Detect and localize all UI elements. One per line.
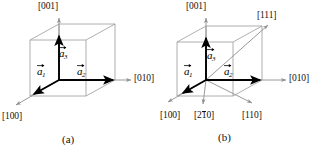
vector-label-a2-b: a2 [224,66,233,79]
vector-label-a2-a: a2 [77,66,86,79]
direction-label-210-b: [210] [194,111,214,121]
direction-210-overbar-digit: 1 [202,111,207,121]
panel-caption-a: (a) [62,133,74,145]
crystal-direction-figure: [001] [010] [100] a3 a2 [0,0,320,156]
axis-rays-a [16,18,131,105]
panel-b: [001] [111] [010] [100] [210] [110] a3 a… [160,0,320,156]
ray-110-b [206,80,252,103]
panel-a: [001] [010] [100] a3 a2 [0,0,160,156]
vector-label-a1-b: a1 [184,66,193,79]
cube-wireframe-b [177,26,262,96]
direction-label-001-b: [001] [186,2,206,12]
vector-a1-b [183,80,206,93]
vector-label-a1-a: a1 [37,66,46,79]
direction-label-100-b: [100] [160,111,180,121]
direction-label-111-b: [111] [257,11,276,21]
direction-label-010-a: [010] [134,74,154,84]
direction-210-suffix: 0] [206,110,214,120]
direction-210-prefix: [2 [194,110,202,120]
vector-a1-a [34,80,59,94]
vector-label-a3-a: a3 [59,48,68,61]
basis-vectors-b [183,38,260,93]
vector-label-a3-b: a3 [207,50,216,63]
ray-210-b [203,80,206,104]
direction-label-100-a: [100] [2,112,22,122]
direction-label-110-b: [110] [242,111,262,121]
direction-label-001-a: [001] [38,2,58,12]
panel-caption-b: (b) [218,131,231,143]
direction-label-010-b: [010] [289,74,309,84]
cube-wireframe-a [30,24,115,96]
basis-vectors-a [34,36,113,94]
